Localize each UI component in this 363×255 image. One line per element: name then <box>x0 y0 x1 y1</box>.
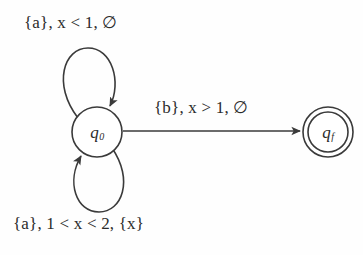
transition-label-q0-to-qf: {b}, x > 1, ∅ <box>154 99 249 116</box>
state-subscript-q0: 0 <box>99 131 104 142</box>
self-loop-bottom-label: {a}, 1 < x < 2, {x} <box>13 215 144 232</box>
state-name-q0: q <box>90 123 99 142</box>
state-label-q0: q0 <box>81 124 113 141</box>
automaton-figure: {a}, x < 1, ∅ {b}, x > 1, ∅ {a}, 1 < x <… <box>0 0 363 255</box>
state-subscript-qf: f <box>331 131 334 142</box>
state-name-qf: q <box>322 123 331 142</box>
state-label-qf: qf <box>312 124 344 141</box>
self-loop-top-label: {a}, x < 1, ∅ <box>24 14 118 31</box>
